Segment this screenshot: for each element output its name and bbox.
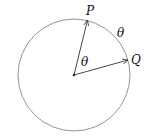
diagram-canvas: P Q θ θ: [0, 0, 148, 138]
label-theta-arc: θ: [117, 26, 125, 40]
label-p: P: [85, 4, 95, 18]
label-q: Q: [131, 53, 141, 67]
label-theta-center: θ: [81, 55, 89, 69]
